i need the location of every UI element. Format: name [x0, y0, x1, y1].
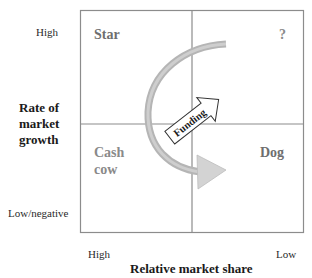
quadrant-cash-cow-label: Cash cow	[94, 144, 124, 178]
funding-arrow: Funding	[161, 88, 228, 150]
cash-cow-line-1: Cash	[94, 144, 124, 161]
cash-cow-line-2: cow	[94, 161, 124, 178]
quadrant-question-label: ?	[279, 26, 286, 43]
quadrant-dog-label: Dog	[260, 144, 284, 161]
quadrant-star-label: Star	[94, 26, 120, 43]
cycle-arrowhead-icon	[197, 155, 226, 189]
matrix-graphic: Funding	[0, 0, 312, 278]
